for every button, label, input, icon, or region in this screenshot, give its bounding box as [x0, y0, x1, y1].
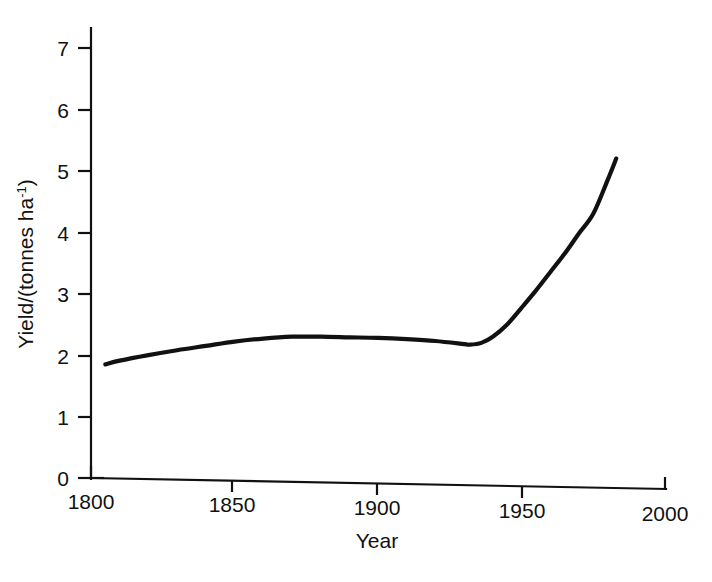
- y-tick-label-3: 3: [57, 283, 69, 306]
- y-tick-label-7: 7: [57, 37, 69, 60]
- y-tick-label-1: 1: [57, 406, 69, 429]
- x-axis-title: Year: [356, 529, 398, 552]
- x-axis-ticks: [91, 466, 665, 498]
- x-tick-label-1850: 1850: [209, 493, 256, 516]
- line-chart: 7 6 5 4 3 2 1 0 1800 1850 1900 1950 2000…: [0, 0, 712, 582]
- y-axis-title-superscript: -1: [14, 186, 29, 198]
- x-tick-label-1800: 1800: [68, 490, 115, 513]
- y-tick-label-2: 2: [57, 345, 69, 368]
- y-axis-title-tail: ): [14, 179, 37, 186]
- y-tick-label-0: 0: [57, 467, 69, 490]
- svg-text:Yield/(tonnes ha-1): Yield/(tonnes ha-1): [14, 179, 37, 349]
- x-tick-label-1900: 1900: [354, 496, 401, 519]
- x-tick-label-2000: 2000: [642, 502, 689, 525]
- y-axis-title: Yield/(tonnes ha-1): [14, 179, 37, 349]
- data-series-wheat-yield: [105, 159, 616, 365]
- x-tick-label-1950: 1950: [499, 499, 546, 522]
- y-tick-label-5: 5: [57, 160, 69, 183]
- y-axis-title-main: Yield/(tonnes ha: [14, 197, 37, 348]
- figure-root: 7 6 5 4 3 2 1 0 1800 1850 1900 1950 2000…: [0, 0, 712, 582]
- y-tick-label-6: 6: [57, 99, 69, 122]
- y-tick-label-4: 4: [57, 222, 69, 245]
- x-axis-line: [91, 478, 666, 489]
